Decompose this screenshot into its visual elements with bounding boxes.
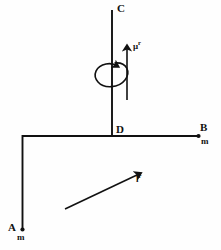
impulse-vector-label: lr	[136, 173, 141, 184]
mass-dot-b	[196, 134, 200, 138]
mass-label-a: m	[17, 233, 25, 242]
angular-velocity-vector-label: μr	[133, 40, 141, 51]
mass-dot-a	[20, 227, 24, 231]
node-label-b: B	[200, 122, 207, 133]
diagram-svg	[0, 0, 221, 250]
diagram-canvas: C D B A m m μr lr	[0, 0, 221, 250]
node-label-c: C	[117, 3, 125, 14]
impulse-superscript: r	[139, 172, 142, 179]
node-label-d: D	[116, 124, 124, 135]
point-masses	[20, 134, 200, 232]
node-label-a: A	[8, 222, 16, 233]
angular-velocity-superscript: r	[138, 39, 141, 46]
impulse-vector	[65, 175, 138, 210]
mass-label-b: m	[201, 137, 209, 146]
frame-members	[22, 10, 198, 230]
